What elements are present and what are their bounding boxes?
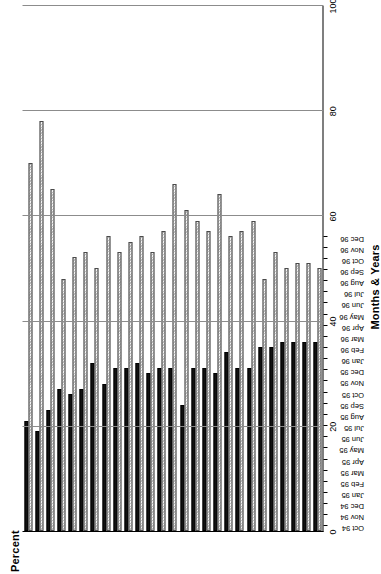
bar-dark-series [68,394,72,531]
category-tick-label: Aug 95 [323,412,363,421]
bar-group [133,6,144,531]
category-month: Feb [350,479,363,488]
gridline [22,110,323,111]
bar-group [245,6,256,531]
category-year: 95 [341,390,349,399]
category-tick-label: May 96 [323,312,363,321]
gridline [22,321,323,322]
bar-dark-series [102,384,106,531]
bar-group [122,6,133,531]
category-year: 96 [339,268,347,277]
category-year: 95 [340,435,348,444]
category-month: Oct [351,256,363,265]
bar-group [290,6,301,531]
bar-group [145,6,156,531]
category-year: 96 [340,357,348,366]
bar-light-series [172,184,176,531]
bar-dark-series [180,405,184,531]
category-tick-label: Apr 95 [323,457,363,466]
bar-light-series [28,163,32,531]
bar-light-series [161,231,165,531]
category-year: 95 [343,424,351,433]
category-month: Nov [350,379,363,388]
bar-dark-series [280,342,284,531]
category-month: Dec [350,368,363,377]
gridline [22,426,323,427]
category-year: 96 [340,346,348,355]
bar-group [100,6,111,531]
category-tick-label: Aug 96 [323,278,363,287]
bar-dark-series [202,368,206,531]
bar-group [256,6,267,531]
bar-group [234,6,245,531]
category-year: 96 [339,279,347,288]
category-tick-label: Nov 96 [323,245,363,254]
category-tick-label: Jul 95 [323,423,363,432]
bar-dark-series [213,373,217,531]
bar-group [44,6,55,531]
bar-light-series [306,263,310,531]
category-month: Jan [351,357,363,366]
category-year: 95 [339,401,347,410]
category-tick-label: Apr 96 [323,323,363,332]
chart-canvas: Percent 020406080100 Oct 94Nov 94Dec 94J… [0,0,381,574]
category-year: 96 [339,234,347,243]
category-year: 96 [341,323,349,332]
bar-light-series [273,252,277,531]
category-year: 95 [339,368,347,377]
bar-light-series [50,189,54,531]
bar-group [301,6,312,531]
category-year: 95 [341,457,349,466]
bar-light-series [72,257,76,531]
bar-dark-series [313,342,317,531]
bar-group [312,6,323,531]
bar-light-series [39,121,43,531]
category-tick-label: Mar 95 [323,468,363,477]
category-tick-label: Sep 96 [323,267,363,276]
category-tick-label: Feb 96 [323,345,363,354]
bar-light-series [184,210,188,531]
bar-dark-series [46,410,50,531]
category-month: Dec [350,502,363,511]
bar-dark-series [269,347,273,531]
bar-dark-series [79,389,83,531]
bar-light-series [217,194,221,531]
category-year: 96 [341,256,349,265]
bar-group [212,6,223,531]
category-month: Jul [353,290,363,299]
category-month: Nov [350,245,363,254]
bar-dark-series [247,368,251,531]
chart-figure: Percent 020406080100 Oct 94Nov 94Dec 94J… [0,0,381,574]
bar-group [89,6,100,531]
bar-dark-series [146,373,150,531]
category-month: Aug [350,279,363,288]
bar-dark-series [24,421,28,531]
bar-light-series [251,221,255,531]
bar-dark-series [291,342,295,531]
bar-dark-series [157,368,161,531]
category-tick-label: Dec 96 [323,234,363,243]
category-month: Dec [350,234,363,243]
category-month: May [349,312,363,321]
bar-light-series [317,268,321,531]
category-tick-label: Jan 95 [323,490,363,499]
bar-dark-series [124,368,128,531]
bar-group [22,6,33,531]
category-month: Jun [351,435,363,444]
category-year: 96 [339,245,347,254]
category-tick-label: Jul 96 [323,289,363,298]
category-tick-label: Jun 96 [323,300,363,309]
bar-group [33,6,44,531]
bar-light-series [94,268,98,531]
bar-dark-series [35,431,39,531]
bar-light-series [262,279,266,531]
bar-dark-series [258,347,262,531]
category-tick-label: Mar 96 [323,334,363,343]
bar-group [223,6,234,531]
category-tick-label: Oct 96 [323,256,363,265]
bar-light-series [106,236,110,531]
bar-group [278,6,289,531]
category-tick-label: May 95 [323,445,363,454]
bar-dark-series [113,368,117,531]
category-tick-label: Jun 95 [323,434,363,443]
